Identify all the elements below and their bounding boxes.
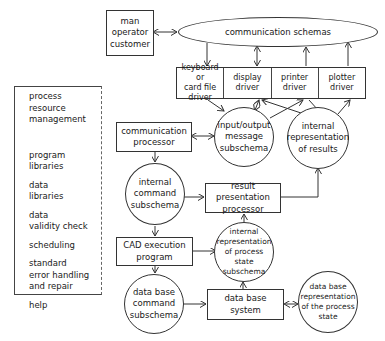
circle-line: data base (309, 282, 346, 292)
plotter-driver: plotter driver (318, 68, 365, 98)
circle-line: of results (298, 144, 337, 156)
box-line: processor (133, 137, 174, 149)
drivers-bar: keyboard or card file driver display dri… (176, 67, 366, 99)
box-line: program (136, 252, 172, 264)
circle-line: input/output (218, 120, 271, 132)
circle-line: subschema (220, 143, 268, 155)
io-message-subschema-circle: input/output message subschema (214, 107, 274, 167)
service-item: help (29, 300, 101, 312)
driver-line: driver (236, 83, 260, 93)
internal-command-subschema-circle: internal command subschema (125, 163, 185, 225)
circle-line: of process state (215, 247, 273, 267)
circle-line: data base (133, 287, 175, 299)
keyboard-card-file-driver: keyboard or card file driver (177, 68, 223, 98)
service-item: program libraries (29, 150, 101, 173)
service-item: data libraries (29, 180, 101, 203)
circle-line: representation (300, 292, 355, 302)
driver-line: plotter (329, 73, 356, 83)
display-driver: display driver (223, 68, 270, 98)
box-line: communication (121, 126, 187, 138)
db-process-state-circle: data base representation of the process … (298, 271, 358, 333)
communication-processor-box: communication processor (116, 122, 192, 152)
db-command-subschema-circle: data base command subschema (124, 274, 184, 334)
service-item: standard error handling and repair (29, 258, 101, 293)
driver-line: display (233, 73, 261, 83)
circle-line: representation (287, 132, 349, 144)
actor-box: man operator customer (106, 10, 154, 56)
communication-schemas-label: communication schemas (225, 27, 331, 37)
box-line: system (230, 305, 261, 317)
internal-results-circle: internal representation of results (287, 107, 349, 169)
circle-line: state (319, 312, 338, 322)
driver-line: keyboard or (177, 63, 223, 83)
circle-line: internal (139, 177, 172, 189)
service-item: scheduling (29, 240, 101, 252)
internal-process-state-circle: internal representation of process state… (214, 222, 274, 282)
service-item: data validity check (29, 210, 101, 233)
driver-line: card file (184, 83, 216, 93)
printer-driver: printer driver (271, 68, 318, 98)
circle-line: representation (216, 237, 271, 247)
driver-line: driver (330, 83, 354, 93)
circle-line: command (134, 188, 176, 200)
communication-schemas-ellipse: communication schemas (178, 17, 378, 47)
cad-execution-program-box: CAD execution program (116, 237, 193, 266)
db-system-box: data base system (207, 289, 284, 320)
box-line: result presentation (206, 181, 280, 204)
actor-line: customer (110, 39, 150, 51)
box-line: CAD execution (123, 240, 185, 252)
circle-line: subschema (131, 200, 179, 212)
actor-line: man (121, 16, 140, 28)
actor-line: operator (112, 27, 149, 39)
circle-line: command (133, 298, 175, 310)
circle-line: subschema (223, 267, 266, 277)
driver-line: driver (188, 93, 212, 103)
box-line: processor (222, 204, 263, 216)
circle-line: internal (302, 121, 335, 133)
circle-line: message (225, 131, 263, 143)
driver-line: printer (281, 73, 308, 83)
circle-line: internal (230, 227, 259, 237)
result-presentation-processor-box: result presentation processor (205, 183, 281, 213)
service-item: process resource management (29, 91, 101, 126)
box-line: data base (224, 293, 266, 305)
driver-line: driver (283, 83, 307, 93)
circle-line: of the process (301, 302, 354, 312)
services-panel: process resource management program libr… (14, 86, 102, 295)
circle-line: subschema (130, 310, 178, 322)
